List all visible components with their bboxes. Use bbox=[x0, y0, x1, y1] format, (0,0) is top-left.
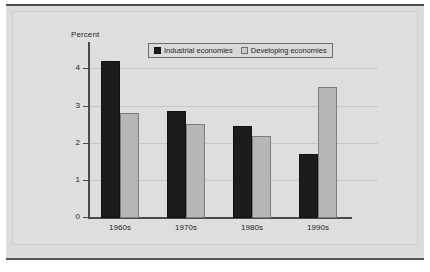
bar-industrial-1960s bbox=[101, 61, 120, 218]
bar-developing-1980s bbox=[252, 136, 271, 218]
y-tick-label-4: 4 bbox=[66, 64, 80, 72]
bar-developing-1990s bbox=[318, 87, 337, 218]
x-tick-label-1990s: 1990s bbox=[285, 224, 351, 232]
legend-swatch-developing-icon bbox=[241, 47, 248, 54]
bar-industrial-1980s bbox=[233, 126, 252, 218]
x-tick-label-1980s: 1980s bbox=[219, 224, 285, 232]
bar-industrial-1990s bbox=[299, 154, 318, 218]
x-tick-label-1960s: 1960s bbox=[87, 224, 153, 232]
y-tick-label-3: 3 bbox=[66, 102, 80, 110]
chart-legend: Industrial economies Developing economie… bbox=[148, 43, 333, 58]
gridline-4 bbox=[90, 68, 378, 69]
plot-area: Percent 4 3 2 1 0 1960s 1970 bbox=[0, 0, 430, 272]
legend-swatch-industrial-icon bbox=[154, 47, 161, 54]
legend-label-industrial: Industrial economies bbox=[164, 47, 233, 55]
legend-label-developing: Developing economies bbox=[251, 47, 327, 55]
bar-developing-1960s bbox=[120, 113, 139, 218]
y-axis-line bbox=[88, 42, 90, 219]
legend-item-industrial: Industrial economies bbox=[154, 47, 233, 55]
figure-container: Percent 4 3 2 1 0 1960s 1970 bbox=[0, 0, 430, 272]
bar-developing-1970s bbox=[186, 124, 205, 218]
x-tick-label-1970s: 1970s bbox=[153, 224, 219, 232]
y-tick-label-0: 0 bbox=[66, 213, 80, 221]
y-tick-label-1: 1 bbox=[66, 176, 80, 184]
legend-item-developing: Developing economies bbox=[241, 47, 327, 55]
y-tick-label-2: 2 bbox=[66, 139, 80, 147]
bar-industrial-1970s bbox=[167, 111, 186, 218]
y-axis-title: Percent bbox=[71, 30, 99, 39]
